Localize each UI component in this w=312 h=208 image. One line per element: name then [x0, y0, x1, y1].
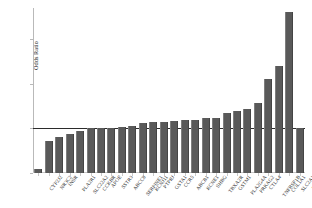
- odds-ratio-bar-chart: Odds Ratio 0.511.52 CYP2J2NR3C2INSRPLA2R…: [0, 0, 312, 208]
- bar: [87, 128, 95, 173]
- bar: [128, 126, 136, 173]
- bar: [34, 169, 42, 173]
- bar: [202, 118, 210, 173]
- bar: [139, 123, 147, 173]
- bar: [55, 137, 63, 173]
- bar: [149, 122, 157, 173]
- bar: [66, 134, 74, 173]
- bar: [254, 103, 262, 173]
- bar: [285, 12, 293, 173]
- bar: [76, 131, 84, 173]
- bar: [243, 109, 251, 173]
- x-axis-category-labels: CYP2J2NR3C2INSRPLA2R1SLC22A2CCKBRAPOESST…: [33, 174, 305, 208]
- bar: [296, 128, 304, 173]
- bar: [118, 127, 126, 173]
- bar: [275, 66, 283, 173]
- bar: [97, 128, 105, 173]
- bar: [160, 122, 168, 173]
- bar: [107, 128, 115, 173]
- bar: [170, 121, 178, 173]
- bar-series: [33, 8, 305, 173]
- bar: [181, 120, 189, 173]
- bar: [264, 79, 272, 173]
- plot-area: 0.511.52: [33, 8, 305, 173]
- bar: [223, 113, 231, 173]
- bar: [212, 118, 220, 173]
- bar: [233, 111, 241, 173]
- bar: [191, 120, 199, 173]
- bar: [45, 141, 53, 173]
